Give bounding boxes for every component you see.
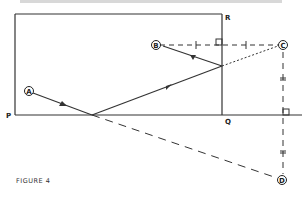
virtual-ray-d	[92, 115, 277, 178]
svg-text:B: B	[153, 42, 158, 50]
point-b: B	[152, 41, 161, 50]
svg-text:C: C	[280, 42, 285, 50]
label-q: Q	[225, 118, 231, 126]
clipped-text-line	[20, 0, 282, 3]
point-c: C	[279, 41, 288, 50]
point-a: A	[25, 87, 34, 96]
svg-text:A: A	[26, 88, 32, 96]
svg-text:D: D	[279, 177, 285, 185]
right-angle-marker	[283, 109, 289, 115]
figure-caption: FIGURE 4	[16, 177, 50, 185]
ray-diagram: R P Q A B C D FIGURE 4	[0, 0, 302, 197]
mirror-box	[15, 14, 222, 115]
right-angle-marker	[216, 39, 222, 45]
virtual-ray-c	[222, 46, 278, 66]
label-p: P	[6, 112, 11, 120]
reflected-ray-1	[92, 66, 222, 115]
label-r: R	[225, 14, 231, 22]
point-d: D	[278, 176, 287, 185]
